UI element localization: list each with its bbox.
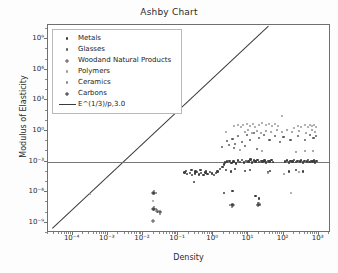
data-point-glasses — [256, 148, 258, 150]
data-point-woodand-natural-products — [151, 219, 155, 223]
data-point-polymers — [268, 123, 270, 125]
x-tick-mark — [318, 232, 319, 235]
data-point-polymers — [293, 127, 295, 129]
data-point-glasses — [249, 139, 251, 141]
legend-circle-marker-icon — [56, 77, 78, 88]
legend-item-label: Polymers — [78, 66, 110, 77]
x-minor-tick-mark — [310, 232, 311, 234]
data-point-metals — [249, 169, 251, 171]
x-minor-tick-mark — [172, 232, 173, 234]
x-minor-tick-mark — [211, 232, 212, 234]
data-point-ceramics — [286, 129, 288, 131]
x-minor-tick-mark — [64, 232, 65, 234]
data-point-polymers — [242, 124, 244, 126]
data-point-glasses — [309, 134, 311, 136]
data-point-polymers — [233, 125, 235, 127]
legend-item-label: E^(1/3)/p,3.0 — [78, 99, 125, 110]
data-point-ceramics — [244, 131, 246, 133]
data-point-glasses — [244, 145, 246, 147]
legend-line-swatch-icon — [56, 99, 78, 110]
data-point-metals — [194, 170, 196, 172]
data-point-glasses — [228, 144, 230, 146]
y-tick-mark — [44, 99, 47, 100]
data-point-metals — [302, 170, 304, 172]
data-point-ceramics — [314, 131, 316, 133]
legend-item-woodand-natural-products[interactable]: Woodand Natural Products — [56, 55, 177, 66]
x-minor-tick-mark — [194, 232, 195, 234]
data-point-metals — [191, 174, 193, 176]
data-point-polymers — [246, 123, 248, 125]
x-minor-tick-mark — [105, 232, 106, 234]
x-minor-tick-mark — [312, 232, 313, 234]
y-minor-tick-mark — [45, 59, 47, 60]
legend-item-label: Ceramics — [78, 77, 111, 88]
data-point-glasses — [234, 143, 236, 145]
y-tick-mark — [44, 38, 47, 39]
data-point-polymers — [152, 200, 154, 202]
y-minor-tick-mark — [45, 79, 47, 80]
y-axis-label: Modulus of Elasticity — [19, 42, 28, 192]
data-point-glasses — [289, 139, 291, 141]
data-point-polymers — [265, 124, 267, 126]
data-point-polymers — [281, 115, 283, 117]
data-point-glasses — [226, 140, 228, 142]
data-point-metals — [234, 168, 236, 170]
x-tick-mark — [283, 232, 284, 235]
legend-item-e-1-3-p-3-0[interactable]: E^(1/3)/p,3.0 — [56, 99, 177, 110]
x-minor-tick-mark — [140, 232, 141, 234]
data-point-metals — [221, 166, 223, 168]
data-point-ceramics — [283, 173, 285, 175]
ashby-chart-figure: Ashby Chart 10⁹10⁶10³10⁰10⁻³10⁻⁶10⁻⁹ 10⁻… — [0, 0, 338, 273]
data-point-glasses — [233, 147, 235, 149]
data-point-glasses — [237, 135, 239, 137]
data-point-metals — [247, 160, 249, 162]
legend-item-polymers[interactable]: Polymers — [56, 66, 177, 77]
legend-item-metals[interactable]: Metals — [56, 33, 177, 44]
x-minor-tick-mark — [240, 232, 241, 234]
x-minor-tick-mark — [304, 232, 305, 234]
y-minor-tick-mark — [45, 110, 47, 111]
legend-plus-marker-icon — [56, 88, 78, 99]
data-point-polymers — [300, 126, 302, 128]
y-tick-label: 10⁰ — [32, 126, 44, 134]
data-point-ceramics — [311, 129, 313, 131]
x-tick-mark — [72, 232, 73, 235]
y-tick-label: 10⁻⁹ — [29, 218, 44, 226]
legend-item-carbons[interactable]: Carbons — [56, 88, 177, 99]
x-minor-tick-mark — [159, 232, 160, 234]
data-point-metals — [249, 158, 251, 160]
data-point-metals — [193, 181, 195, 183]
data-point-metals — [202, 174, 204, 176]
legend-item-ceramics[interactable]: Ceramics — [56, 77, 177, 88]
x-minor-tick-mark — [258, 232, 259, 234]
legend-item-label: Carbons — [78, 88, 107, 99]
y-minor-tick-mark — [45, 28, 47, 29]
x-tick-mark — [212, 232, 213, 235]
legend-circle-marker-icon — [56, 33, 78, 44]
data-point-metals — [235, 162, 237, 164]
x-minor-tick-mark — [229, 232, 230, 234]
x-minor-tick-mark — [93, 232, 94, 234]
x-minor-tick-mark — [134, 232, 135, 234]
data-point-ceramics — [304, 150, 306, 152]
legend-item-glasses[interactable]: Glasses — [56, 44, 177, 55]
data-point-glasses — [241, 141, 243, 143]
data-point-polymers — [307, 126, 309, 128]
x-minor-tick-mark — [202, 232, 203, 234]
data-point-glasses — [268, 139, 270, 141]
x-minor-tick-mark — [242, 232, 243, 234]
chart-legend: MetalsGlassesWoodand Natural ProductsPol… — [52, 29, 182, 114]
y-minor-tick-mark — [45, 201, 47, 202]
x-minor-tick-mark — [175, 232, 176, 234]
data-point-carbons — [256, 202, 261, 207]
data-point-polymers — [249, 125, 251, 127]
data-point-glasses — [231, 138, 233, 140]
y-minor-tick-mark — [45, 48, 47, 49]
data-point-metals — [225, 169, 227, 171]
x-minor-tick-mark — [328, 232, 329, 234]
data-point-polymers — [240, 126, 242, 128]
x-minor-tick-mark — [61, 232, 62, 234]
y-minor-tick-mark — [45, 181, 47, 182]
data-point-polymers — [297, 125, 299, 127]
x-tick-label: 10⁻¹ — [169, 234, 184, 242]
